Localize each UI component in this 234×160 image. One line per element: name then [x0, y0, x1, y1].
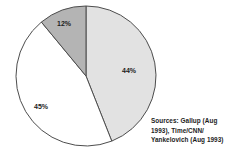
pie-slice-label-45: 45% [34, 103, 49, 110]
pie-slice-label-12: 12% [57, 20, 72, 27]
pie-slice-label-44: 44% [122, 67, 137, 74]
pie-chart-figure: 44%45%12% Sources: Gallup (Aug 1993), Ti… [0, 0, 234, 160]
pie-slice-group [16, 6, 156, 146]
source-note: Sources: Gallup (Aug 1993), Time/CNN/ Ya… [151, 116, 233, 145]
